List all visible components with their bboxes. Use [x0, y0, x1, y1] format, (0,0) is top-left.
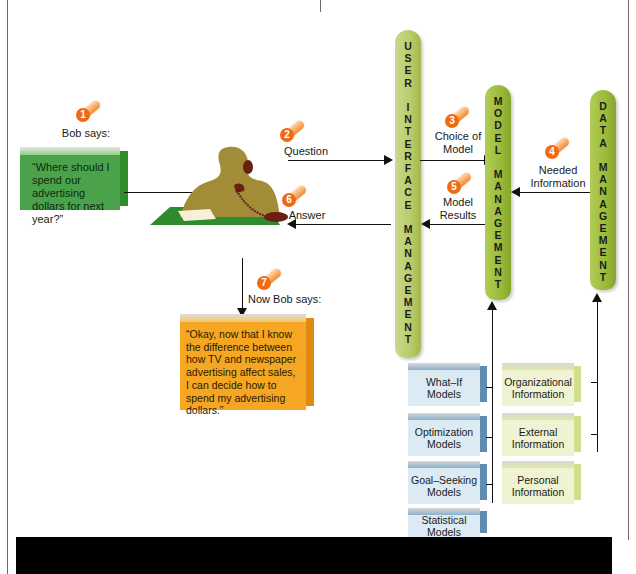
connector-tick [486, 387, 492, 388]
arrow-head-left-icon [287, 219, 296, 229]
bob-question-box: “Where should I spend our advertising do… [20, 155, 120, 210]
arrow-model-to-ui [430, 224, 485, 225]
frame-right-border [628, 0, 629, 540]
step-5-badge-icon: 5 [447, 170, 477, 194]
step-7-label: Now Bob says: [248, 293, 328, 306]
connector-tick [591, 434, 597, 435]
arrow-question-to-ui [288, 160, 384, 161]
connector-tick [486, 437, 492, 438]
optimization-models-box: Optimization Models [408, 420, 480, 456]
step-1-label: Bob says: [50, 127, 122, 140]
arrow-answer-to-bob [296, 224, 391, 225]
models-connector-line [492, 310, 493, 503]
user-interface-management-label: U S E R I N T E R F A C E M A N A G E M … [395, 40, 421, 345]
data-management-label: D A T A M A N A G E M E N T [590, 100, 616, 283]
goal-seeking-models-box: Goal–Seeking Models [408, 468, 480, 504]
step-6-badge-icon: 6 [282, 183, 312, 207]
statistical-models-box: Statistical Models [408, 515, 480, 537]
step-7-badge-icon: 7 [257, 266, 287, 290]
external-information-box: External Information [502, 420, 574, 456]
arrow-ui-to-model [420, 160, 485, 161]
personal-information-box: Personal Information [502, 468, 574, 504]
user-interface-management-pillar: U S E R I N T E R F A C E M A N A G E M … [395, 30, 421, 358]
bottom-black-bar [16, 537, 612, 574]
arrow-head-right-icon [384, 155, 393, 165]
step-3-badge-icon: 3 [445, 104, 475, 128]
model-management-label: M O D E L M A N A G E M E N T [485, 95, 511, 290]
frame-left-border [7, 0, 8, 574]
organizational-information-box: Organizational Information [502, 370, 574, 406]
needed-information-label: Needed Information [525, 164, 591, 190]
data-management-pillar: D A T A M A N A G E M E N T [590, 90, 616, 290]
arrow-data-to-model [520, 192, 592, 193]
arrow-head-up-icon [487, 301, 497, 310]
what-if-models-box: What–If Models [408, 370, 480, 406]
step-4-badge-icon: 4 [545, 135, 575, 159]
top-divider-tick [320, 0, 321, 12]
question-label: Question [276, 145, 336, 158]
step-1-badge-icon: 1 [76, 98, 106, 122]
arrow-head-left-icon [421, 219, 430, 229]
choice-of-model-label: Choice of Model [428, 130, 488, 156]
information-connector-line [597, 302, 598, 452]
connector-tick [591, 382, 597, 383]
model-management-pillar: M O D E L M A N A G E M E N T [485, 85, 511, 300]
model-results-label: Model Results [432, 196, 484, 222]
arrow-head-up-icon [592, 293, 602, 302]
connector-tick [486, 484, 492, 485]
arrow-head-left-icon [511, 187, 520, 197]
step-2-badge-icon: 2 [280, 118, 310, 142]
arrow-bob-to-conclusion [242, 258, 243, 308]
bob-conclusion-box: “Okay, now that I know the difference be… [180, 322, 306, 410]
